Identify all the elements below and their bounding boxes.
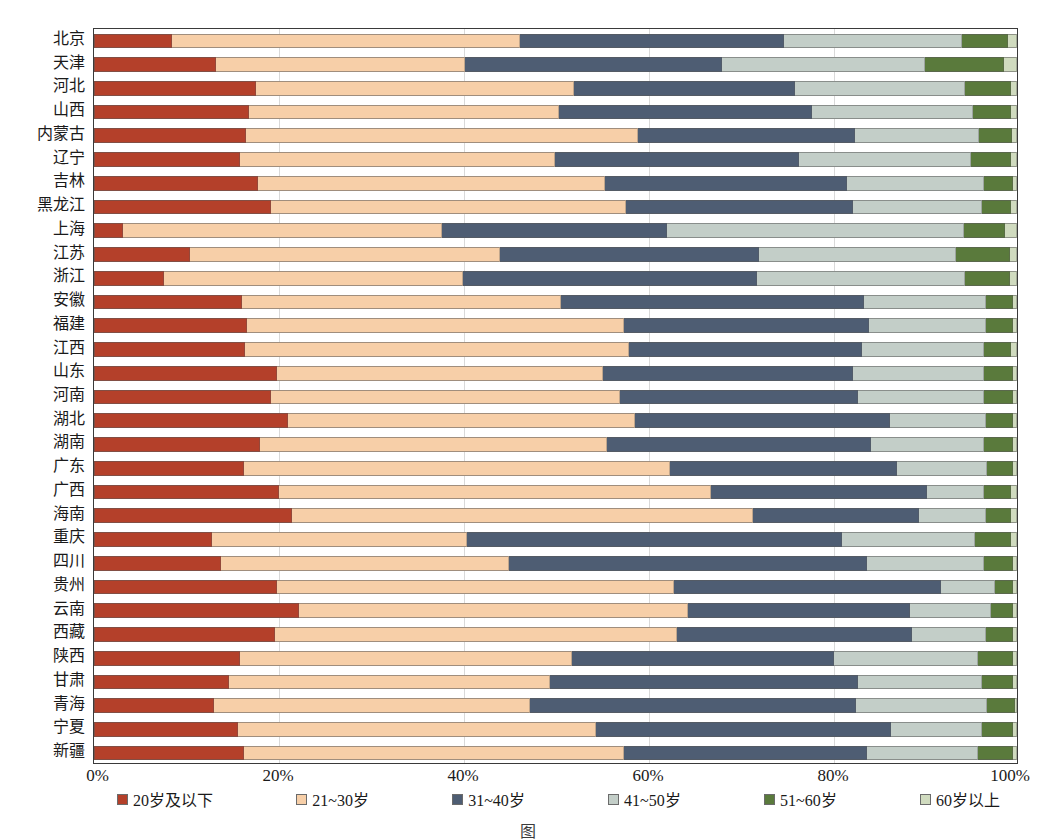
x-axis-tick-label: 20%: [262, 766, 293, 786]
bar-segment: [94, 105, 249, 120]
bar-segment: [1005, 223, 1017, 238]
y-axis-tick-label: 四川: [53, 553, 85, 569]
bar-row: [94, 57, 1017, 72]
bar-segment: [1013, 461, 1017, 476]
bar-segment: [442, 223, 667, 238]
bar-segment: [812, 105, 973, 120]
bar-segment: [674, 580, 942, 595]
bar-segment: [94, 128, 246, 143]
legend-label: 20岁及以下: [133, 787, 213, 811]
bar-segment: [1011, 152, 1017, 167]
bar-segment: [799, 152, 971, 167]
bar-segment: [956, 247, 1010, 262]
bar-segment: [94, 532, 212, 547]
bar-row: [94, 413, 1017, 428]
bar-segment: [979, 128, 1012, 143]
bar-row: [94, 34, 1017, 49]
bar-segment: [94, 413, 288, 428]
bar-segment: [94, 627, 275, 642]
bar-segment: [550, 675, 858, 690]
bar-segment: [962, 34, 1008, 49]
bar-segment: [94, 176, 258, 191]
legend-item[interactable]: 20岁及以下: [117, 787, 213, 811]
bar-segment: [279, 485, 711, 500]
y-axis-tick-label: 广东: [53, 458, 85, 474]
bar-segment: [288, 413, 635, 428]
legend-item[interactable]: 31~40岁: [452, 787, 525, 811]
bar-row: [94, 580, 1017, 595]
bar-row: [94, 722, 1017, 737]
bar-segment: [856, 698, 987, 713]
bar-segment: [984, 390, 1014, 405]
legend-label: 31~40岁: [468, 787, 525, 811]
bar-segment: [677, 627, 911, 642]
bar-segment: [94, 271, 164, 286]
bar-segment: [123, 223, 442, 238]
bar-segment: [978, 746, 1013, 761]
y-axis-tick-label: 辽宁: [53, 150, 85, 166]
x-axis-tick-label: 60%: [632, 766, 663, 786]
bar-segment: [1010, 247, 1017, 262]
bar-segment: [244, 461, 670, 476]
legend-label: 60岁以上: [936, 787, 1000, 811]
bar-segment: [260, 437, 607, 452]
legend-swatch-icon: [296, 794, 307, 805]
bar-segment: [626, 200, 853, 215]
bar-segment: [965, 271, 1009, 286]
legend-swatch-icon: [452, 794, 463, 805]
bar-segment: [890, 413, 986, 428]
bar-row: [94, 176, 1017, 191]
bar-segment: [757, 271, 966, 286]
bar-segment: [1011, 342, 1017, 357]
bar-segment: [299, 603, 689, 618]
bar-segment: [94, 200, 271, 215]
bar-segment: [984, 176, 1014, 191]
bar-row: [94, 152, 1017, 167]
bar-segment: [1013, 651, 1017, 666]
legend-item[interactable]: 60岁以上: [920, 787, 1000, 811]
bar-segment: [1012, 128, 1017, 143]
legend-item[interactable]: 21~30岁: [296, 787, 369, 811]
bar-segment: [864, 295, 986, 310]
y-axis-tick-label: 内蒙古: [37, 126, 85, 142]
bar-row: [94, 105, 1017, 120]
bar-segment: [520, 34, 784, 49]
bar-row: [94, 247, 1017, 262]
bar-row: [94, 746, 1017, 761]
bar-segment: [1011, 485, 1017, 500]
bar-segment: [1015, 698, 1017, 713]
y-axis-tick-label: 广西: [53, 482, 85, 498]
bar-segment: [271, 200, 625, 215]
bar-segment: [277, 580, 674, 595]
legend-item[interactable]: 41~50岁: [608, 787, 681, 811]
bar-segment: [212, 532, 467, 547]
bar-row: [94, 698, 1017, 713]
bar-segment: [1013, 675, 1017, 690]
bar-row: [94, 651, 1017, 666]
bar-segment: [94, 580, 277, 595]
bar-segment: [862, 342, 984, 357]
bar-segment: [927, 485, 984, 500]
bar-segment: [238, 722, 596, 737]
bar-segment: [858, 675, 982, 690]
legend-item[interactable]: 51~60岁: [764, 787, 837, 811]
bar-segment: [984, 485, 1012, 500]
bar-segment: [555, 152, 799, 167]
y-axis-tick-label: 湖北: [53, 411, 85, 427]
bar-segment: [94, 81, 256, 96]
bar-segment: [94, 247, 190, 262]
bar-segment: [94, 223, 123, 238]
bar-segment: [94, 603, 299, 618]
legend-swatch-icon: [117, 794, 128, 805]
bar-segment: [1013, 413, 1017, 428]
bar-row: [94, 461, 1017, 476]
bar-segment: [574, 81, 796, 96]
bar-segment: [258, 176, 605, 191]
bar-segment: [670, 461, 897, 476]
bar-segment: [605, 176, 847, 191]
bar-segment: [986, 413, 1014, 428]
bar-segment: [784, 34, 961, 49]
bar-segment: [1013, 556, 1017, 571]
bar-segment: [753, 508, 919, 523]
bar-segment: [871, 437, 984, 452]
